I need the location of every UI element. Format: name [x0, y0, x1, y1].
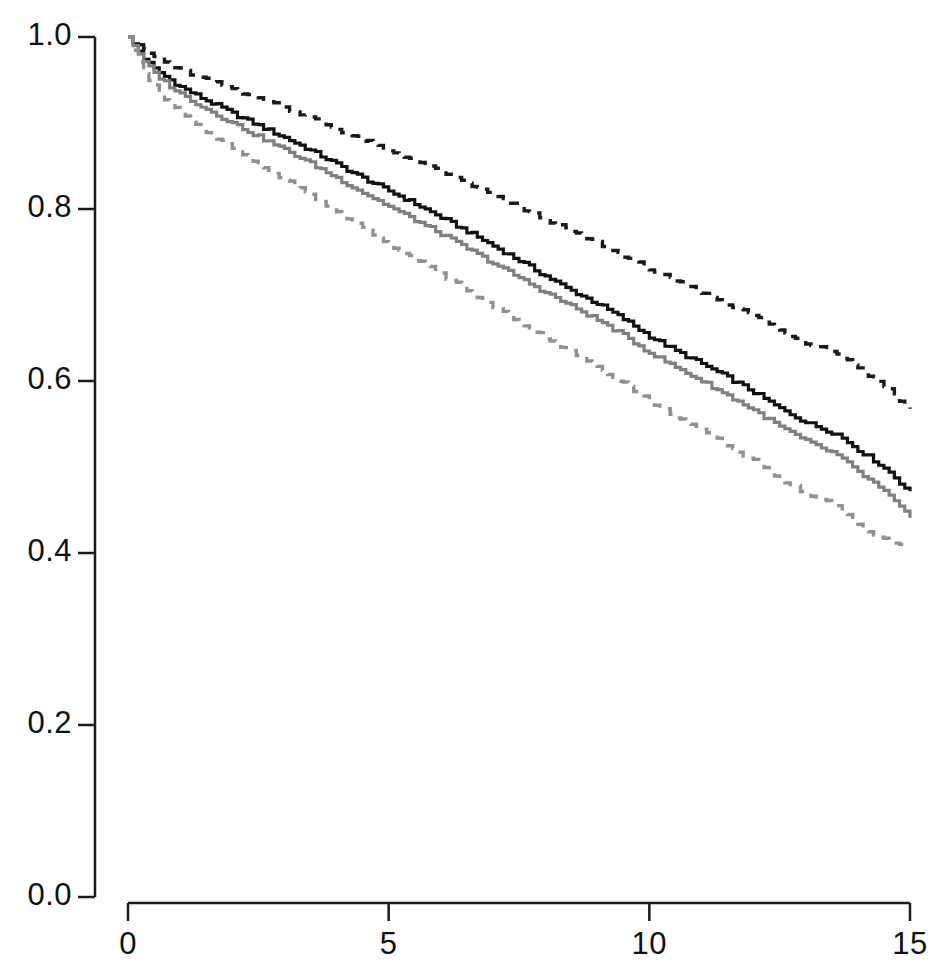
survival-plot-figure: 0.00.20.40.60.81.0 051015 — [0, 0, 951, 976]
data-curves — [128, 37, 910, 545]
x-axis — [128, 903, 910, 921]
y-axis — [78, 37, 95, 897]
x-tick-label: 5 — [349, 926, 429, 962]
x-tick-label: 15 — [870, 926, 950, 962]
y-tick-label: 0.8 — [0, 189, 72, 225]
curve-observed-upper-ci — [128, 37, 910, 409]
curve-expected-survival — [128, 37, 910, 518]
x-tick-label: 0 — [88, 926, 168, 962]
x-axis-ticks — [128, 903, 910, 921]
y-tick-label: 0.0 — [0, 877, 72, 913]
plot-canvas — [0, 0, 951, 976]
x-tick-label: 10 — [609, 926, 689, 962]
y-tick-label: 0.6 — [0, 361, 72, 397]
curve-observed-survival — [128, 37, 910, 491]
curve-expected-lower-ci — [128, 37, 910, 545]
y-axis-ticks — [78, 37, 95, 897]
y-tick-label: 1.0 — [0, 17, 72, 53]
y-tick-label: 0.2 — [0, 705, 72, 741]
y-tick-label: 0.4 — [0, 533, 72, 569]
